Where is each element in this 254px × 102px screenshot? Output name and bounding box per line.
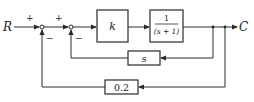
output-label: C (239, 20, 248, 34)
plus-sign-2: + (55, 13, 63, 23)
outer-feedback-label: 0.2 (114, 82, 129, 93)
summing-junction-2 (69, 25, 73, 29)
input-label: R (2, 20, 12, 34)
inner-feedback-label: s (141, 53, 146, 64)
plus-sign-1: + (26, 13, 34, 23)
gain-label: k (109, 20, 116, 33)
plant-denominator: (s + 1) (154, 27, 180, 36)
summing-junction-1 (40, 25, 44, 29)
minus-sign-2: − (75, 33, 83, 43)
minus-sign-1: − (46, 33, 54, 43)
plant-numerator: 1 (164, 14, 169, 23)
block-diagram: R + − + − k 1 (s + 1) C s 0.2 (0, 0, 254, 102)
